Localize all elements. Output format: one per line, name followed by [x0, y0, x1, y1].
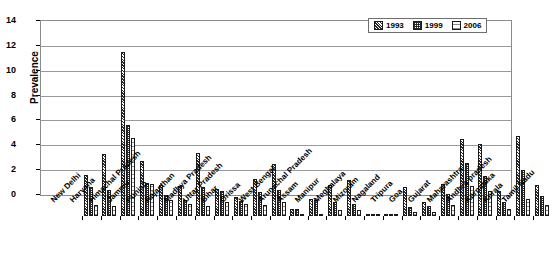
y-axis-tick-label: 4	[0, 139, 16, 149]
y-axis-tick-label: 2	[0, 164, 16, 174]
bar-group	[535, 42, 553, 216]
legend-label: 1993	[386, 21, 404, 30]
legend-item: 1993	[374, 21, 404, 30]
x-axis-tick-mark	[514, 216, 515, 220]
y-axis-tick-label: 14	[0, 15, 16, 25]
bar-1993	[516, 136, 520, 216]
bar-1993	[535, 185, 539, 216]
legend-item: 2006	[452, 21, 482, 30]
chart-legend: 199319992006	[368, 18, 487, 33]
legend-swatch-1999	[413, 21, 422, 30]
y-axis-tick-label: 0	[0, 189, 16, 199]
y-axis-tick-label: 6	[0, 114, 16, 124]
bar-2006	[545, 205, 549, 216]
bar-1999	[540, 196, 544, 216]
x-axis-tick-mark	[533, 216, 534, 220]
y-axis-tick-label: 12	[0, 40, 16, 50]
bar-2006	[526, 199, 530, 216]
legend-item: 1999	[413, 21, 443, 30]
x-axis-tick-labels: New DelhiHaryanaHimachal PradeshJammuPun…	[40, 198, 512, 277]
legend-label: 2006	[464, 21, 482, 30]
legend-label: 1999	[425, 21, 443, 30]
legend-swatch-2006	[452, 21, 461, 30]
y-axis-tick-label: 10	[0, 65, 16, 75]
legend-swatch-1993	[374, 21, 383, 30]
y-axis-tick-label: 8	[0, 90, 16, 100]
